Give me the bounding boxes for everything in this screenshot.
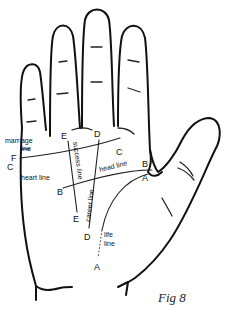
life-line-dotted	[98, 230, 102, 258]
marker-B-left: B	[57, 187, 63, 197]
marker-D-top: D	[94, 129, 101, 139]
marker-E-bottom: E	[73, 214, 79, 224]
career-line-label: career line	[84, 189, 95, 222]
middle-finger	[82, 10, 114, 129]
marker-C-left: C	[7, 162, 14, 172]
heart-line-label: heart line	[21, 174, 50, 181]
palmistry-diagram: marriage line F C heart line C B B head …	[0, 0, 228, 312]
labels: marriage line F C heart line C B B head …	[5, 129, 148, 272]
marker-A-bottom: A	[94, 262, 100, 272]
thumb	[118, 118, 220, 295]
marker-E-top: E	[61, 131, 67, 141]
ring-finger	[50, 26, 80, 137]
marker-D-bottom: D	[84, 232, 91, 242]
head-line-label: head line	[99, 159, 128, 173]
success-line-label: success line	[72, 141, 84, 180]
palm-left-edge	[21, 128, 36, 300]
index-finger	[118, 26, 150, 150]
marker-B-right: B	[142, 159, 148, 169]
wrist-crease	[36, 286, 72, 290]
life-line-label-1: life	[104, 231, 113, 238]
marriage-label-2: line	[20, 145, 31, 152]
figure-caption: Fig 8	[157, 290, 186, 305]
life-line-label-2: line	[104, 240, 115, 247]
little-finger	[21, 64, 46, 130]
marker-A-top: A	[142, 173, 148, 183]
marker-C-right: C	[116, 147, 123, 157]
finger-creases	[27, 47, 194, 216]
marriage-label-1: marriage	[5, 137, 33, 145]
